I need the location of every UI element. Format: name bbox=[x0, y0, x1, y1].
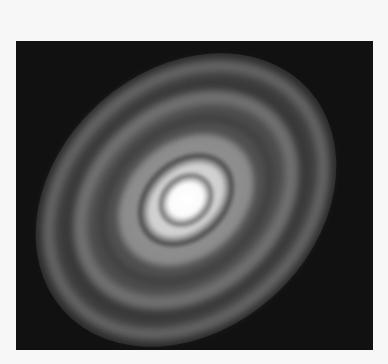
disk-image bbox=[16, 41, 373, 350]
